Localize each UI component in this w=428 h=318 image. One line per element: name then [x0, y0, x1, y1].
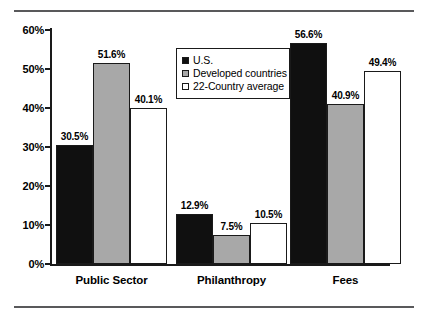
bar-value-label: 7.5% — [221, 221, 243, 232]
top-divider-rule — [14, 10, 414, 12]
y-axis-tick-mark — [45, 107, 50, 109]
legend-label: 22-Country average — [193, 80, 284, 92]
bar-value-label: 49.4% — [369, 57, 396, 68]
legend-entry-1: Developed countries — [182, 67, 284, 79]
bar-value-label: 12.9% — [181, 200, 208, 211]
y-axis-tick-label: 30% — [23, 141, 44, 153]
bar-chart-figure: 0%10%20%30%40%50%60% U.S.Developed count… — [0, 0, 428, 318]
bar-avg-2 — [364, 71, 401, 264]
bar-value-label: 10.5% — [255, 209, 282, 220]
y-axis-tick-mark — [45, 68, 50, 70]
bar-value-label: 40.9% — [332, 90, 359, 101]
y-axis-tick-mark — [45, 224, 50, 226]
bar-value-label: 51.6% — [98, 49, 125, 60]
bar-us-2 — [290, 43, 327, 264]
category-label-2: Fees — [333, 274, 359, 286]
y-axis-tick-label: 60% — [23, 24, 44, 36]
bar-value-label: 56.6% — [295, 29, 322, 40]
bar-avg-0 — [130, 108, 167, 264]
category-label-1: Philanthropy — [197, 274, 266, 286]
bar-dev-1 — [213, 235, 250, 264]
x-axis-line — [50, 264, 390, 266]
white-square-icon — [182, 83, 189, 90]
chart-legend: U.S.Developed countries22-Country averag… — [176, 48, 290, 99]
legend-label: U.S. — [193, 54, 213, 66]
bar-dev-0 — [93, 63, 130, 264]
bar-us-0 — [56, 145, 93, 264]
bar-dev-2 — [327, 104, 364, 264]
category-label-0: Public Sector — [75, 274, 147, 286]
bar-value-label: 40.1% — [135, 94, 162, 105]
bar-value-label: 30.5% — [61, 131, 88, 142]
y-axis-tick-label: 10% — [23, 219, 44, 231]
legend-entry-2: 22-Country average — [182, 80, 284, 92]
bottom-divider-rule — [14, 306, 414, 308]
gray-square-icon — [182, 70, 189, 77]
bar-us-1 — [176, 214, 213, 264]
legend-entry-0: U.S. — [182, 54, 284, 66]
y-axis-tick-labels: 0%10%20%30%40%50%60% — [0, 0, 44, 318]
y-axis-tick-mark — [45, 185, 50, 187]
y-axis-tick-label: 50% — [23, 63, 44, 75]
y-axis-tick-mark — [45, 29, 50, 31]
legend-label: Developed countries — [193, 67, 287, 79]
bar-avg-1 — [250, 223, 287, 264]
y-axis-tick-label: 40% — [23, 102, 44, 114]
y-axis-tick-mark — [45, 263, 50, 265]
y-axis-tick-label: 20% — [23, 180, 44, 192]
y-axis-tick-mark — [45, 146, 50, 148]
y-axis-tick-label: 0% — [29, 258, 45, 270]
black-square-icon — [182, 57, 189, 64]
